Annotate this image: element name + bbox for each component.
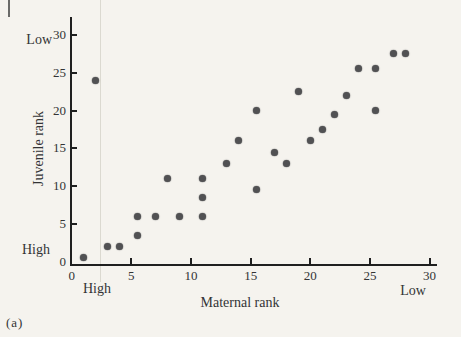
x-tick-label: 10 — [176, 269, 206, 283]
y-tick-mark — [72, 110, 77, 112]
y-axis-line — [70, 17, 72, 266]
y-tick-label: 20 — [40, 104, 66, 118]
x-tick-mark — [190, 258, 192, 264]
y-tick-mark — [72, 223, 77, 225]
data-point — [307, 137, 314, 144]
y-tick-label: 30 — [40, 28, 66, 42]
data-point — [199, 175, 206, 182]
x-tick-label: 30 — [415, 269, 445, 283]
data-point — [372, 65, 379, 72]
y-tick-mark — [72, 72, 77, 74]
data-point — [92, 77, 99, 84]
data-point — [253, 107, 260, 114]
data-point — [372, 107, 379, 114]
x-tick-mark — [309, 258, 311, 264]
data-point — [134, 232, 141, 239]
x-tick-mark — [429, 258, 431, 264]
data-point — [199, 213, 206, 220]
y-tick-mark — [72, 185, 77, 187]
x-tick-mark — [130, 258, 132, 264]
x-axis-right-annotation: Low — [396, 284, 430, 298]
page-corner-mark — [8, 0, 10, 17]
data-point — [199, 194, 206, 201]
data-point — [164, 175, 171, 182]
data-point — [235, 137, 242, 144]
x-tick-mark — [369, 258, 371, 264]
x-axis-line — [70, 264, 437, 266]
y-tick-label: 15 — [40, 141, 66, 155]
data-point — [402, 50, 409, 57]
y-tick-label: 5 — [40, 217, 66, 231]
data-point — [355, 65, 362, 72]
data-point — [152, 213, 159, 220]
data-point — [343, 92, 350, 99]
x-tick-label: 20 — [295, 269, 325, 283]
x-tick-label: 0 — [57, 269, 87, 283]
data-point — [134, 213, 141, 220]
data-point — [390, 50, 397, 57]
data-point — [223, 160, 230, 167]
data-point — [319, 126, 326, 133]
x-tick-label: 15 — [236, 269, 266, 283]
data-point — [331, 111, 338, 118]
y-tick-label: 25 — [40, 66, 66, 80]
data-point — [80, 254, 87, 261]
x-tick-label: 5 — [116, 269, 146, 283]
data-point — [104, 243, 111, 250]
y-tick-label: 10 — [40, 179, 66, 193]
data-point — [253, 186, 260, 193]
data-point — [271, 149, 278, 156]
data-point — [283, 160, 290, 167]
x-axis-left-annotation: High — [80, 282, 114, 296]
data-point — [176, 213, 183, 220]
data-point — [295, 88, 302, 95]
figure-label: (a) — [6, 315, 36, 331]
data-point — [116, 243, 123, 250]
x-tick-label: 25 — [355, 269, 385, 283]
y-tick-mark — [72, 34, 77, 36]
scatter-plot: Low High High Low Juvenile rank Maternal… — [0, 0, 461, 337]
x-axis-title: Maternal rank — [160, 295, 320, 311]
x-tick-mark — [250, 258, 252, 264]
y-tick-label: 0 — [40, 255, 66, 269]
y-tick-mark — [72, 147, 77, 149]
scan-gutter-line — [100, 0, 101, 282]
